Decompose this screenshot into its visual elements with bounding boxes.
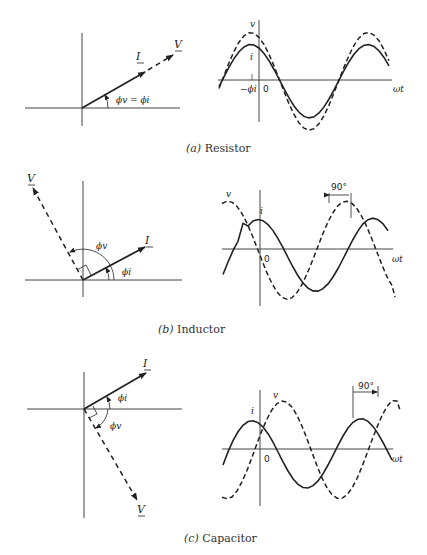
phi-v-label: ϕv — [96, 241, 107, 251]
caption-letter: (c) — [184, 532, 199, 545]
phase-offset-label: −ϕi — [240, 84, 257, 94]
origin-label: 0 — [263, 84, 269, 94]
phi-i-label: ϕi — [118, 393, 127, 403]
caption-resistor: (a) Resistor — [186, 142, 251, 155]
phasor-V-label: V — [137, 503, 146, 516]
i-label: i — [250, 52, 253, 62]
caption-text: Resistor — [201, 142, 250, 155]
origin-label: 0 — [264, 254, 270, 264]
i-label: i — [251, 406, 254, 416]
inductor-phasor: I V ϕv ϕi — [25, 172, 182, 297]
phi-v-label: ϕv — [110, 421, 121, 431]
phase-angle-label: ϕv = ϕi — [116, 95, 150, 105]
origin-label: 0 — [264, 454, 270, 464]
phasor-I-label: I — [144, 234, 150, 247]
phasor-diagrams: I V ϕv = ϕi v i −ϕi 0 ωt I V ϕv ϕi — [0, 0, 427, 555]
v-label: v — [273, 390, 278, 400]
phasor-V-label: V — [27, 172, 36, 185]
phasor-I-label: I — [135, 50, 141, 63]
axis-label: ωt — [393, 84, 404, 94]
i-label: i — [260, 206, 263, 216]
resistor-waveform: v i −ϕi 0 ωt — [218, 19, 404, 130]
resistor-phasor: I V ϕv = ϕi — [25, 33, 183, 126]
phasor-V-label: V — [174, 38, 183, 51]
capacitor-phasor: I V ϕv ϕi — [27, 357, 182, 518]
caption-text: Capacitor — [199, 532, 257, 545]
phi-i-label: ϕi — [122, 267, 131, 277]
axis-label: ωt — [392, 254, 403, 264]
caption-capacitor: (c) Capacitor — [184, 532, 257, 545]
caption-letter: (a) — [186, 142, 201, 155]
v-label: v — [250, 19, 255, 29]
caption-text: Inductor — [174, 323, 226, 336]
capacitor-waveform: 90° v i 0 ωt — [222, 381, 403, 506]
caption-letter: (b) — [158, 323, 174, 336]
axis-label: ωt — [392, 454, 403, 464]
inductor-waveform: 90° v i 0 ωt — [222, 182, 403, 306]
caption-inductor: (b) Inductor — [158, 323, 225, 336]
shift-label: 90° — [331, 182, 347, 192]
phasor-I-label: I — [142, 357, 148, 370]
shift-label: 90° — [358, 381, 374, 391]
v-label: v — [226, 189, 231, 199]
